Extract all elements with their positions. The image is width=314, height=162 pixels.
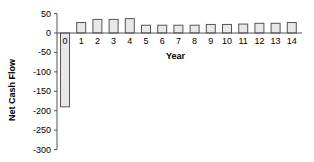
bar [223, 24, 232, 33]
bar [77, 23, 86, 33]
x-tick-label: 8 [192, 36, 197, 46]
y-tick-label: 50 [41, 9, 51, 19]
bar [239, 24, 248, 33]
x-tick-label: 1 [79, 36, 84, 46]
x-tick-label: 4 [127, 36, 132, 46]
x-tick-label: 13 [271, 36, 281, 46]
bar [93, 19, 102, 33]
x-tick-label: 6 [160, 36, 165, 46]
y-axis: 500-50-100-150-200-250-300 [33, 9, 57, 155]
x-tick-label: 11 [239, 36, 248, 46]
bar [142, 25, 151, 33]
x-tick-label: 2 [95, 36, 100, 46]
y-axis-label: Net Cash Flow [7, 58, 17, 121]
y-tick-label: -250 [33, 125, 51, 135]
bar [158, 25, 167, 33]
y-tick-label: -50 [38, 47, 51, 57]
y-tick-label: -200 [33, 106, 51, 116]
x-tick-label: 3 [111, 36, 116, 46]
bars [61, 19, 297, 107]
bar [109, 19, 118, 33]
bar [174, 25, 183, 33]
bar [255, 23, 264, 33]
bar [206, 24, 215, 33]
y-tick-label: -100 [33, 67, 51, 77]
x-axis-label: Year [166, 51, 186, 61]
x-tick-label: 12 [254, 36, 264, 46]
x-tick-label: 14 [287, 36, 297, 46]
y-tick-label: 0 [46, 28, 51, 38]
bar [287, 23, 296, 33]
net-cash-flow-chart: 500-50-100-150-200-250-300 0123456789101… [0, 0, 314, 162]
x-tick-label: 9 [208, 36, 213, 46]
x-tick-label: 10 [222, 36, 232, 46]
x-tick-label: 5 [143, 36, 148, 46]
x-axis: 01234567891011121314 [57, 33, 302, 46]
y-tick-label: -300 [33, 145, 51, 155]
x-tick-label: 0 [62, 36, 67, 46]
bar [271, 23, 280, 33]
bar [125, 19, 134, 33]
y-tick-label: -150 [33, 86, 51, 96]
x-tick-label: 7 [176, 36, 181, 46]
bar [190, 25, 199, 33]
